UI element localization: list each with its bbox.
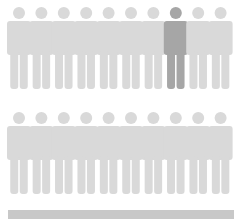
- row-bottom-svg: [7, 105, 233, 197]
- person-icon: [52, 112, 76, 194]
- person-icon: [29, 112, 53, 194]
- person-icon: [97, 7, 121, 89]
- pictogram-row-bottom: [7, 105, 233, 193]
- person-icon: [97, 112, 121, 194]
- person-icon: [7, 112, 31, 194]
- person-icon: [119, 7, 143, 89]
- person-icon: [141, 7, 165, 89]
- person-icon: [119, 112, 143, 194]
- person-icon: [209, 112, 233, 194]
- person-icon: [186, 7, 210, 89]
- person-icon: [209, 7, 233, 89]
- person-icon: [7, 7, 31, 89]
- pictogram-row-top: [7, 0, 233, 88]
- person-icon: [186, 112, 210, 194]
- bottom-bar: [8, 210, 234, 219]
- person-icon: [141, 112, 165, 194]
- person-icon-highlighted: [164, 7, 188, 89]
- person-icon: [29, 7, 53, 89]
- person-icon: [74, 7, 98, 89]
- person-icon: [52, 7, 76, 89]
- person-icon: [74, 112, 98, 194]
- row-top-svg: [7, 0, 233, 92]
- person-icon: [164, 112, 188, 194]
